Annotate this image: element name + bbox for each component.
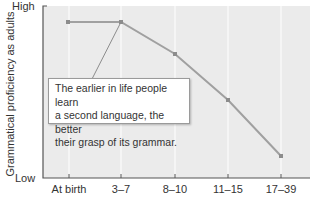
annotation-callout: The earlier in life people learn a secon… xyxy=(48,78,190,124)
callout-line: The earlier in life people learn xyxy=(55,82,189,109)
x-tick-label: 8–10 xyxy=(145,183,205,195)
y-axis-label: Grammatical proficiency as adults xyxy=(4,4,16,184)
x-tick-label: 3–7 xyxy=(91,183,151,195)
x-tick-label: 17–39 xyxy=(251,183,311,195)
callout-line: their grasp of its grammar. xyxy=(55,136,189,150)
x-tick-label: 11–15 xyxy=(198,183,258,195)
y-tick-low: Low xyxy=(15,172,35,184)
callout-line: a second language, the better xyxy=(55,109,189,136)
y-tick-high: High xyxy=(12,0,35,12)
x-tick-label: At birth xyxy=(39,183,99,195)
